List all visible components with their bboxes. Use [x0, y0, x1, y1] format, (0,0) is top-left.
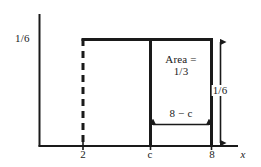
width-annotation-label: 8 − c: [167, 108, 194, 119]
area-annotation: Area = 1/3: [165, 53, 197, 77]
x-tick-label-8: 8: [209, 149, 215, 160]
area-annotation-line1: Area =: [165, 53, 197, 65]
height-annotation-label: 1/6: [212, 85, 229, 96]
x-tick-label-c: c: [147, 149, 152, 160]
y-axis-max-label: 1/6: [15, 33, 30, 44]
x-tick-label-2: 2: [80, 149, 86, 160]
area-annotation-line2: 1/3: [165, 65, 197, 77]
x-axis-label: x: [240, 149, 245, 160]
uniform-distribution-figure: 1/6 Area = 1/3 1/6 8 − c 2 c 8 x: [0, 0, 261, 167]
